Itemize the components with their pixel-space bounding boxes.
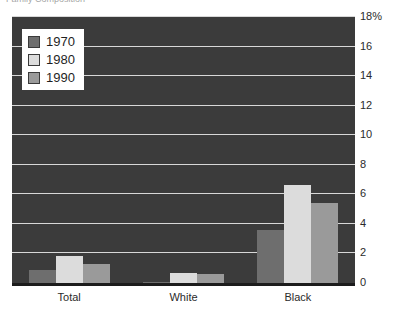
bar <box>29 270 56 283</box>
bar <box>83 264 110 283</box>
bar <box>311 203 338 283</box>
bar <box>257 230 284 283</box>
legend-item: 1990 <box>28 70 75 85</box>
legend-item-label: 1970 <box>46 35 75 48</box>
legend-swatch-icon <box>28 54 40 66</box>
x-axis-tick-label: White <box>169 291 197 304</box>
legend-item-label: 1980 <box>46 53 75 66</box>
y-axis-tick-label: 14 <box>360 70 372 81</box>
y-axis-tick-label: 8 <box>360 159 366 170</box>
legend-swatch-icon <box>28 72 40 84</box>
chart-legend: 197019801990 <box>22 29 84 90</box>
bar <box>284 185 311 283</box>
y-axis-tick-label: 12 <box>360 100 372 111</box>
y-axis-tick-label: 0 <box>360 277 366 288</box>
x-axis-tick-label: Black <box>284 291 311 304</box>
legend-swatch-icon <box>28 36 40 48</box>
bar <box>170 273 197 283</box>
y-axis-tick-label: 16 <box>360 41 372 52</box>
bar <box>56 256 83 283</box>
x-axis: TotalWhiteBlack <box>12 291 355 311</box>
y-axis: 024681012141618% <box>357 0 413 315</box>
legend-item: 1980 <box>28 52 75 67</box>
y-axis-tick-label: 10 <box>360 129 372 140</box>
legend-item-label: 1990 <box>46 71 75 84</box>
x-axis-tick-label: Total <box>58 291 81 304</box>
bar <box>197 274 224 283</box>
x-axis-line <box>12 283 355 286</box>
legend-item: 1970 <box>28 34 75 49</box>
y-axis-tick-label: 4 <box>360 218 366 229</box>
y-axis-tick-label: 2 <box>360 247 366 258</box>
y-axis-tick-label: 18% <box>360 11 382 22</box>
chart-title-text: Family Composition <box>6 0 126 4</box>
y-axis-tick-label: 6 <box>360 188 366 199</box>
chart-title-remnant: Family Composition <box>6 0 126 5</box>
